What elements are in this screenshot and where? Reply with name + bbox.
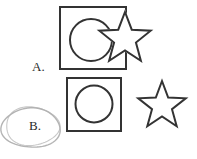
row-label-b: B. (29, 119, 41, 132)
figure-background (0, 0, 197, 159)
figure-canvas (0, 0, 197, 159)
shape-occlusion-figure: A. B. (0, 0, 197, 159)
row-label-a: A. (32, 60, 45, 73)
